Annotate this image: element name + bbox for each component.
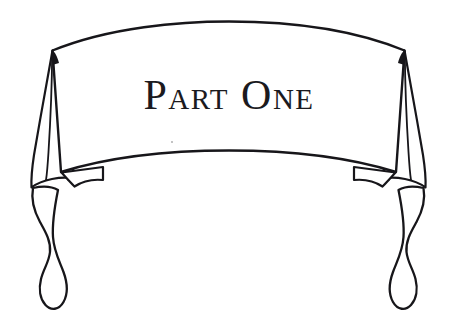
- ribbon-banner-illustration: [0, 0, 458, 335]
- ink-speck: [171, 141, 173, 143]
- page-title: Part One: [0, 74, 458, 116]
- right-ribbon-tail: [390, 187, 424, 309]
- page-root: Part One: [0, 0, 458, 335]
- left-ribbon-tail: [32, 187, 66, 309]
